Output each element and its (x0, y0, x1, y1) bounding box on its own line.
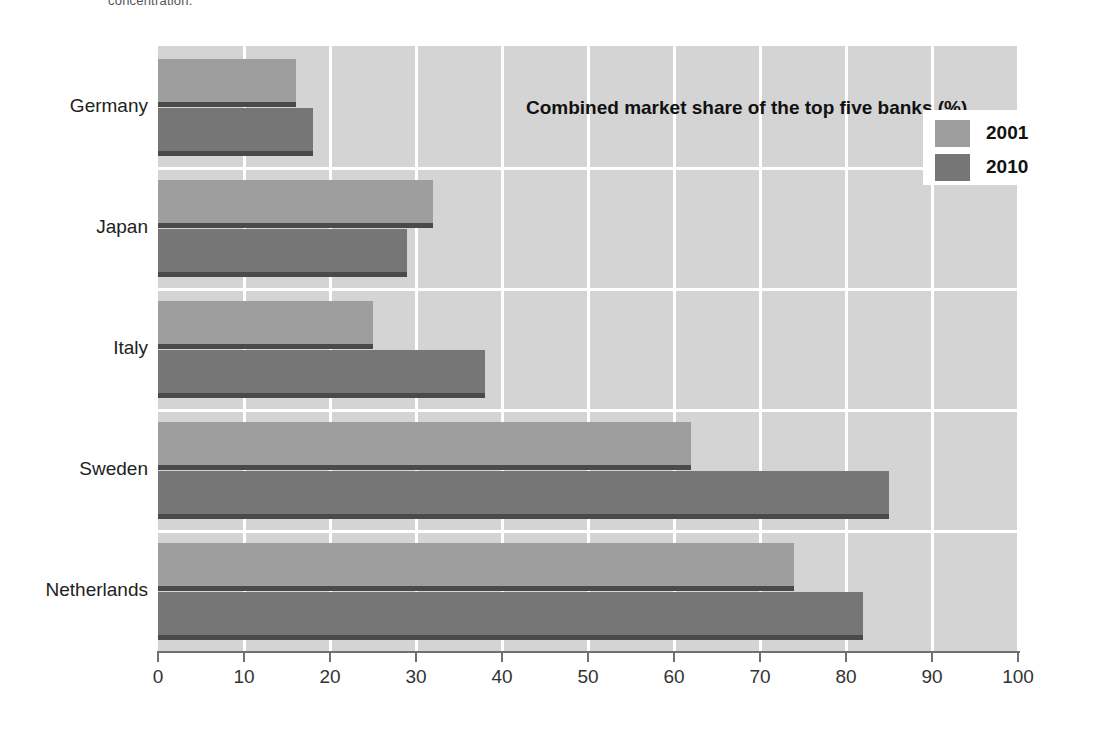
x-axis-tick-label-0: 0 (153, 666, 164, 688)
x-axis-tick-label-20: 20 (319, 666, 340, 688)
bar-netherlands-2001 (158, 543, 794, 586)
x-axis-tick-label-80: 80 (835, 666, 856, 688)
plot-area: Combined market share of the top five ba… (158, 46, 1018, 651)
bar-shadow (158, 393, 485, 398)
x-axis-tick-30 (415, 651, 417, 662)
bar-italy-2001 (158, 301, 373, 344)
bar-netherlands-2010 (158, 592, 863, 635)
x-axis-tick-label-50: 50 (577, 666, 598, 688)
legend-label-2001: 2001 (986, 122, 1028, 144)
bar-sweden-2001 (158, 422, 691, 465)
x-axis-tick-label-100: 100 (1002, 666, 1034, 688)
legend: 20012010 (923, 110, 1069, 185)
x-axis-tick-90 (931, 651, 933, 662)
bar-japan-2010 (158, 229, 407, 272)
bar-shadow (158, 635, 863, 640)
x-axis-tick-label-70: 70 (749, 666, 770, 688)
legend-item-2001: 2001 (935, 116, 1069, 150)
x-axis-tick-100 (1017, 651, 1019, 662)
bar-shadow (158, 151, 313, 156)
category-band (158, 530, 1018, 651)
x-axis-tick-20 (329, 651, 331, 662)
bar-shadow (158, 465, 691, 470)
y-axis-label-netherlands: Netherlands (0, 579, 148, 601)
x-axis-tick-40 (501, 651, 503, 662)
bar-italy-2010 (158, 350, 485, 393)
x-axis-tick-label-10: 10 (233, 666, 254, 688)
y-axis-label-sweden: Sweden (0, 458, 148, 480)
x-axis-tick-50 (587, 651, 589, 662)
bar-shadow (158, 344, 373, 349)
bar-shadow (158, 586, 794, 591)
category-band (158, 409, 1018, 530)
legend-item-2010: 2010 (935, 150, 1069, 184)
x-axis-tick-80 (845, 651, 847, 662)
x-axis-tick-10 (243, 651, 245, 662)
band-separator (158, 167, 1018, 170)
bar-japan-2001 (158, 180, 433, 223)
legend-label-2010: 2010 (986, 156, 1028, 178)
bar-sweden-2010 (158, 471, 889, 514)
bar-germany-2010 (158, 108, 313, 151)
x-axis-tick-60 (673, 651, 675, 662)
x-axis-tick-0 (157, 651, 159, 662)
chart-title: Combined market share of the top five ba… (526, 97, 967, 119)
category-band (158, 288, 1018, 409)
x-axis-tick-label-30: 30 (405, 666, 426, 688)
band-separator (158, 288, 1018, 291)
legend-swatch-2001 (935, 120, 970, 147)
band-separator (158, 409, 1018, 412)
bar-shadow (158, 272, 407, 277)
x-axis-tick-label-40: 40 (491, 666, 512, 688)
bar-germany-2001 (158, 59, 296, 102)
legend-swatch-2010 (935, 154, 970, 181)
y-axis-label-italy: Italy (0, 337, 148, 359)
category-band (158, 167, 1018, 288)
x-axis-line (158, 651, 1020, 653)
bar-chart: Combined market share of the top five ba… (0, 0, 1117, 732)
x-axis-tick-label-90: 90 (921, 666, 942, 688)
bar-shadow (158, 514, 889, 519)
y-axis-label-japan: Japan (0, 216, 148, 238)
band-separator (158, 530, 1018, 533)
bar-shadow (158, 223, 433, 228)
bar-shadow (158, 102, 296, 107)
y-axis-label-germany: Germany (0, 95, 148, 117)
x-axis-tick-label-60: 60 (663, 666, 684, 688)
x-axis-tick-70 (759, 651, 761, 662)
